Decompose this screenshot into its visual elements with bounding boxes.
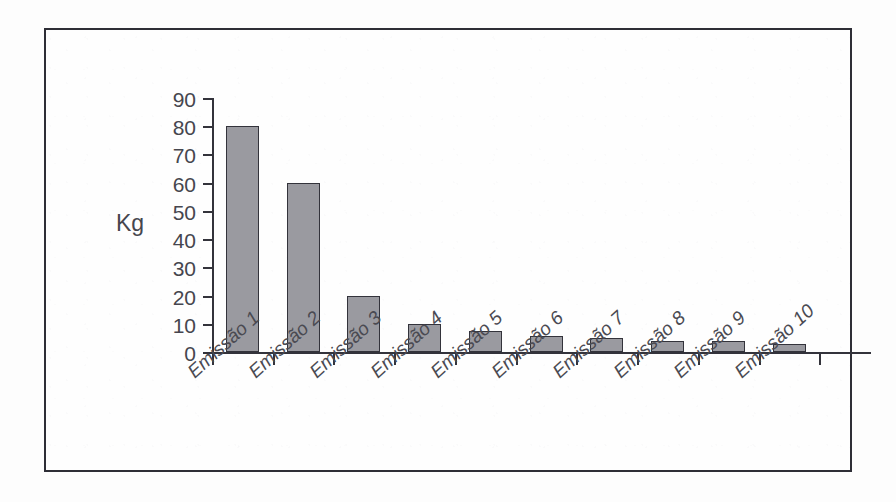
y-axis-tick-label: 60 xyxy=(173,173,196,194)
y-axis-title: Kg xyxy=(116,212,144,235)
y-axis-tick-label: 70 xyxy=(173,145,196,166)
y-axis-tick-label: 90 xyxy=(173,89,196,110)
chart-frame: Kg 9080706050403020100 Emissão 1Emissão … xyxy=(44,28,852,472)
y-axis-tick-label: 20 xyxy=(173,286,196,307)
y-axis-tick: 70 xyxy=(203,154,212,156)
y-axis-tick: 40 xyxy=(203,239,212,241)
chart-page: Kg 9080706050403020100 Emissão 1Emissão … xyxy=(0,0,896,502)
y-axis-tick-label: 30 xyxy=(173,258,196,279)
y-axis-tick: 60 xyxy=(203,183,212,185)
y-axis-tick: 90 xyxy=(203,98,212,100)
y-axis-tick-label: 10 xyxy=(173,314,196,335)
y-axis-tick: 20 xyxy=(203,296,212,298)
y-axis-tick: 50 xyxy=(203,211,212,213)
y-axis-tick: 10 xyxy=(203,324,212,326)
x-axis-tick xyxy=(819,354,821,365)
y-axis-tick: 30 xyxy=(203,267,212,269)
y-axis-line xyxy=(212,98,214,352)
y-axis-tick-label: 80 xyxy=(173,117,196,138)
y-axis-tick-label: 40 xyxy=(173,230,196,251)
y-axis-tick-label: 50 xyxy=(173,201,196,222)
y-axis-tick: 80 xyxy=(203,126,212,128)
